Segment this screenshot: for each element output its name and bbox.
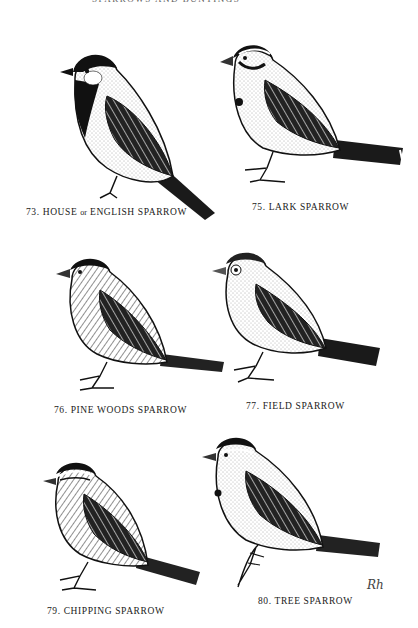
plate-chipping-sparrow: [38, 460, 208, 595]
plate-number: 73.: [26, 207, 40, 217]
plate-pine-woods-sparrow: [52, 254, 230, 394]
species-label: 80. TREE SPARROW: [258, 596, 353, 606]
running-head: SPARROWS AND BUNTINGS: [92, 0, 240, 4]
caption-field-sparrow: 77. FIELD SPARROW: [246, 401, 345, 411]
caption-pine-woods-sparrow: 76. PINE WOODS SPARROW: [54, 405, 187, 415]
caption-chipping-sparrow: 79. CHIPPING SPARROW: [47, 606, 165, 616]
caption-house-sparrow: 73. HOUSE or ENGLISH SPARROW: [26, 207, 187, 217]
species-label: 76. PINE WOODS SPARROW: [54, 405, 187, 415]
house-sparrow-illustration: [55, 48, 225, 220]
tree-sparrow-illustration: [198, 435, 383, 595]
pine-woods-sparrow-illustration: [52, 254, 230, 394]
species-name: ENGLISH SPARROW: [90, 207, 187, 217]
species-label: 75. LARK SPARROW: [252, 202, 349, 212]
species-label: 77. FIELD SPARROW: [246, 401, 345, 411]
plate-field-sparrow: [208, 248, 386, 390]
artist-signature: Rh: [367, 578, 384, 592]
caption-lark-sparrow: 75. LARK SPARROW: [252, 202, 349, 212]
species-label: 79. CHIPPING SPARROW: [47, 606, 165, 616]
plate-tree-sparrow: [198, 435, 383, 595]
plate-lark-sparrow: [215, 40, 405, 190]
species-name: HOUSE: [43, 207, 78, 217]
caption-tree-sparrow: 80. TREE SPARROW: [258, 596, 353, 606]
chipping-sparrow-illustration: [38, 460, 208, 595]
lark-sparrow-illustration: [215, 40, 405, 190]
plate-house-sparrow: [55, 48, 225, 220]
field-sparrow-illustration: [208, 248, 386, 390]
species-name-joiner: or: [80, 208, 87, 217]
